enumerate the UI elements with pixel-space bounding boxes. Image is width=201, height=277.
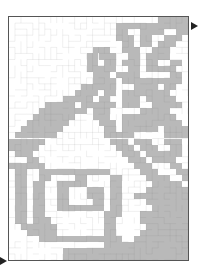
entry-arrow-icon [0, 257, 7, 265]
maze-board[interactable] [8, 16, 189, 261]
exit-arrow-icon [191, 22, 198, 30]
wall-segments [9, 17, 188, 260]
maze-walls [9, 17, 188, 260]
